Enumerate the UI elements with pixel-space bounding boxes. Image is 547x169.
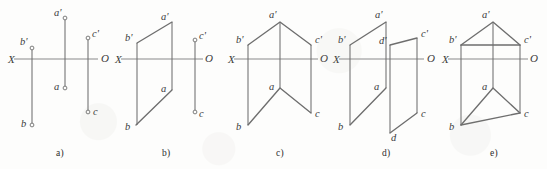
label-a: a (161, 83, 166, 94)
axis-label-o: O (530, 52, 538, 64)
label-c-prime: c' (421, 28, 429, 39)
edge-upper-edge-b-prime-a-prime (137, 22, 172, 43)
panel-c: a'b'c'abcXO (227, 9, 328, 132)
label-a-prime: a' (161, 11, 169, 22)
label-c: c (421, 108, 426, 119)
edge-lower-edge-d-c (390, 113, 417, 133)
label-a-prime: a' (375, 9, 383, 20)
axis-label-x: X (114, 53, 123, 65)
axis-label-o: O (427, 52, 435, 64)
label-b-prime: b' (236, 34, 244, 45)
point-marker-c (193, 110, 197, 114)
axis-label-x: X (441, 53, 450, 65)
label-c: c (93, 106, 98, 117)
axis-label-o: O (205, 52, 213, 64)
cap-e: e) (490, 148, 498, 158)
axis-label-x: X (332, 53, 341, 65)
axis-label-o: O (320, 52, 328, 64)
edge-lower-edge-b-a (350, 88, 386, 125)
label-b: b (449, 121, 454, 132)
panels-group: a'b'c'abcXOa'b'c'abcXOa'b'c'abcXOa'b'c'd… (7, 7, 538, 143)
panel-b: a'b'c'abcXO (114, 11, 213, 132)
label-a-prime: a' (269, 9, 277, 20)
point-marker-b (30, 123, 34, 127)
cap-c: c) (276, 148, 284, 158)
label-b: b (21, 118, 26, 129)
label-d-prime: d' (379, 35, 387, 46)
label-b: b (125, 121, 130, 132)
label-a-prime: a' (54, 7, 62, 18)
label-a: a (269, 81, 274, 92)
label-c-prime: c' (524, 34, 532, 45)
panel-d: a'b'c'd'abcdXO (332, 9, 435, 143)
point-marker-c (86, 110, 90, 114)
label-c: c (315, 108, 320, 119)
label-a: a (482, 81, 487, 92)
panel-e: a'b'c'abcXO (441, 9, 538, 132)
label-c-prime: c' (199, 30, 207, 41)
edge-upper-roof-b-prime-a-prime-c-prime (461, 22, 520, 45)
edge-upper-edge-d-prime-c-prime (390, 38, 417, 45)
axis-label-o: O (101, 52, 109, 64)
point-marker-b-prime (30, 46, 34, 50)
point-marker-c-prime (86, 36, 90, 40)
label-a: a (54, 81, 59, 92)
edge-lower-edge-b-a (136, 90, 172, 125)
axis-label-x: X (227, 53, 236, 65)
cap-b: b) (162, 148, 170, 158)
label-a-prime: a' (482, 9, 490, 20)
label-b: b (338, 121, 343, 132)
axis-label-x: X (7, 53, 16, 65)
label-c-prime: c' (92, 28, 100, 39)
point-marker-a-prime (63, 16, 67, 20)
label-c: c (524, 108, 529, 119)
label-c: c (199, 108, 204, 119)
label-d: d (391, 132, 397, 143)
label-b: b (236, 121, 241, 132)
label-b-prime: b' (338, 34, 346, 45)
label-b-prime: b' (449, 34, 457, 45)
label-c-prime: c' (315, 34, 323, 45)
projection-figure-svg: a'b'c'abcXOa'b'c'abcXOa'b'c'abcXOa'b'c'd… (0, 0, 547, 169)
cap-a: a) (56, 148, 64, 158)
point-marker-a (63, 86, 67, 90)
label-b-prime: b' (20, 36, 28, 47)
point-marker-c-prime (193, 38, 197, 42)
cap-d: d) (382, 148, 390, 158)
edge-lower-vee-b-a-c (248, 88, 311, 125)
figure-root: a'b'c'abcXOa'b'c'abcXOa'b'c'abcXOa'b'c'd… (0, 0, 547, 169)
label-b-prime: b' (125, 32, 133, 43)
panel-a: a'b'c'abcXO (7, 7, 109, 129)
label-a: a (374, 81, 379, 92)
